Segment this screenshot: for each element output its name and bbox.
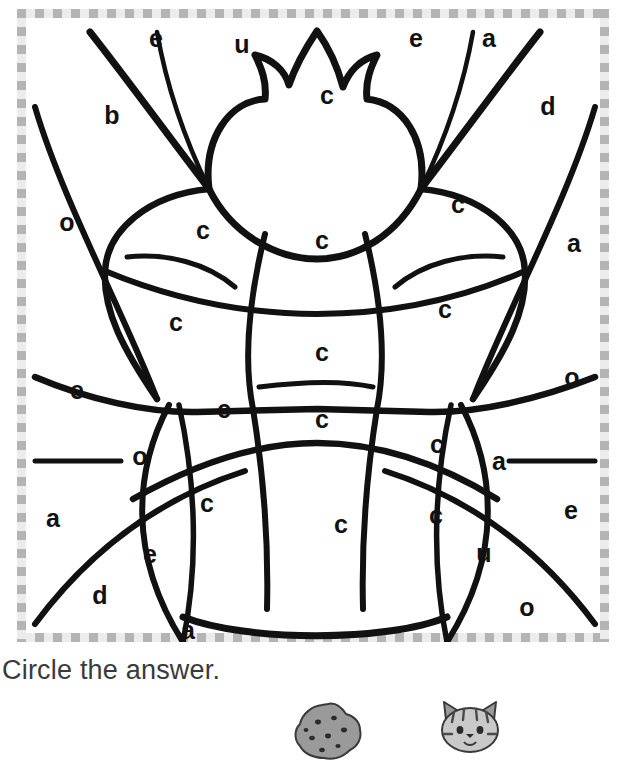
letter-cell-e-27: e [564, 498, 578, 523]
letter-cell-u-29: u [476, 541, 491, 566]
letter-cell-o-21: o [132, 444, 147, 469]
letter-cell-c-25: c [334, 512, 348, 537]
letter-cell-c-23: c [200, 491, 214, 516]
letter-cell-c-19: c [315, 407, 329, 432]
letter-cell-e-17: e [70, 378, 84, 403]
cookie-picture[interactable] [288, 700, 368, 760]
letter-cell-e-3: e [409, 26, 423, 51]
instruction-text: Circle the answer. [2, 655, 220, 686]
letter-cell-u-2: u [234, 32, 249, 57]
letter-cell-e-1: e [149, 26, 163, 51]
letter-cell-o-9: o [59, 210, 74, 235]
letter-cell-o-31: o [519, 595, 534, 620]
letter-cell-c-18: c [217, 397, 231, 422]
letter-cell-d-30: d [92, 583, 107, 608]
letter-cell-c-15: c [315, 340, 329, 365]
letter-cell-c-26: c [429, 503, 443, 528]
letter-cell-d-7: d [540, 94, 555, 119]
letter-cell-a-24: a [46, 506, 60, 531]
letter-cell-c-20: c [430, 432, 444, 457]
letter-cell-o-16: o [564, 365, 579, 390]
letter-cell-c-13: c [438, 297, 452, 322]
letter-cell-c-10: c [196, 218, 210, 243]
letter-cell-b-6: b [104, 103, 119, 128]
letter-cell-c-8: c [451, 192, 465, 217]
letter-cell-c-11: c [315, 228, 329, 253]
letter-cell-a-22: a [492, 449, 506, 474]
letter-cell-c-14: c [169, 310, 183, 335]
letter-cell-e-28: e [143, 542, 157, 567]
letter-cell-a-4: a [482, 26, 496, 51]
letter-cell-c-5: c [320, 83, 334, 108]
letter-cell-a-32: a [181, 618, 195, 643]
cat-picture[interactable] [430, 700, 510, 760]
letter-cell-a-12: a [567, 231, 581, 256]
